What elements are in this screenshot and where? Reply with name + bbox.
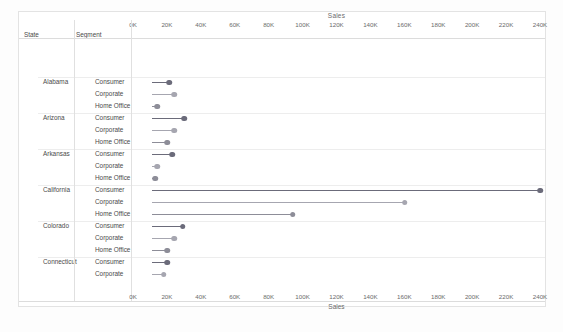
row-segment-label[interactable]: Consumer: [95, 78, 147, 85]
row-plot-pane: [150, 149, 545, 161]
axis-tick-label: 120K: [329, 293, 343, 300]
table-row[interactable]: AlabamaConsumer: [38, 77, 545, 89]
lollipop-dot[interactable]: [180, 224, 186, 230]
table-row[interactable]: ColoradoConsumer: [38, 221, 545, 233]
row-state-label[interactable]: California: [43, 186, 95, 193]
row-plot-pane: [150, 233, 545, 245]
table-row[interactable]: Corporate: [38, 161, 545, 173]
row-plot-pane: [150, 89, 545, 101]
row-plot-pane: [150, 101, 545, 113]
row-plot-pane: [150, 245, 545, 257]
axis-tick-label: 240K: [533, 21, 547, 28]
row-plot-pane: [150, 137, 545, 149]
axis-tick-label: 240K: [533, 293, 547, 300]
row-segment-label[interactable]: Corporate: [95, 198, 147, 205]
lollipop-dot[interactable]: [164, 140, 170, 146]
axis-tick-label: 0K: [129, 293, 137, 300]
axis-tick-label: 20K: [161, 293, 172, 300]
lollipop-dot[interactable]: [170, 152, 176, 158]
axis-title-top: Sales: [133, 12, 540, 19]
row-segment-label[interactable]: Corporate: [95, 90, 147, 97]
lollipop-dot[interactable]: [290, 212, 296, 218]
table-row[interactable]: ConnecticutConsumer: [38, 257, 545, 269]
row-plot-pane: [150, 269, 545, 281]
lollipop-dot[interactable]: [154, 104, 160, 110]
row-segment-label[interactable]: Consumer: [95, 258, 147, 265]
row-plot-pane: [150, 113, 545, 125]
lollipop-dot[interactable]: [171, 92, 177, 98]
rows-container: AlabamaConsumerCorporateHome OfficeArizo…: [19, 38, 545, 301]
row-plot-pane: [150, 185, 545, 197]
row-state-label[interactable]: Colorado: [43, 222, 95, 229]
table-row[interactable]: ArizonaConsumer: [38, 113, 545, 125]
row-state-label[interactable]: Alabama: [43, 78, 95, 85]
row-segment-label[interactable]: Consumer: [95, 186, 147, 193]
lollipop-dot[interactable]: [538, 188, 544, 194]
row-plot-pane: [150, 125, 545, 137]
table-row[interactable]: Home Office: [38, 173, 545, 185]
axis-tick-label: 220K: [499, 21, 513, 28]
row-state-label[interactable]: Connecticut: [43, 258, 95, 265]
lollipop-dot[interactable]: [161, 272, 167, 278]
lollipop-dot[interactable]: [181, 116, 187, 122]
table-row[interactable]: Corporate: [38, 233, 545, 245]
table-row[interactable]: Corporate: [38, 269, 545, 281]
column-header-state[interactable]: State: [24, 31, 39, 38]
vertical-rule-segment: [131, 20, 132, 301]
row-segment-label[interactable]: Consumer: [95, 150, 147, 157]
axis-tick-label: 160K: [397, 293, 411, 300]
axis-ticks-top: 0K20K40K60K80K100K120K140K160K180K200K22…: [0, 21, 563, 31]
axis-ticks-bottom: 0K20K40K60K80K100K120K140K160K180K200K22…: [0, 293, 563, 303]
lollipop-dot[interactable]: [402, 200, 408, 206]
axis-tick-label: 180K: [431, 21, 445, 28]
axis-tick-label: 200K: [465, 21, 479, 28]
lollipop-dot[interactable]: [164, 248, 170, 254]
table-row[interactable]: Home Office: [38, 101, 545, 113]
row-state-label[interactable]: Arkansas: [43, 150, 95, 157]
row-segment-label[interactable]: Home Office: [95, 102, 147, 109]
row-segment-label[interactable]: Corporate: [95, 162, 147, 169]
row-state-label[interactable]: Arizona: [43, 114, 95, 121]
axis-tick-label: 80K: [263, 293, 274, 300]
table-row[interactable]: Home Office: [38, 245, 545, 257]
table-row[interactable]: CaliforniaConsumer: [38, 185, 545, 197]
table-row[interactable]: Home Office: [38, 209, 545, 221]
row-segment-label[interactable]: Corporate: [95, 234, 147, 241]
worksheet-canvas: Sales 0K20K40K60K80K100K120K140K160K180K…: [0, 0, 563, 332]
table-row[interactable]: Home Office: [38, 137, 545, 149]
table-row[interactable]: Corporate: [38, 125, 545, 137]
row-segment-label[interactable]: Home Office: [95, 210, 147, 217]
lollipop-stem: [152, 202, 405, 203]
lollipop-dot[interactable]: [153, 176, 159, 182]
axis-tick-label: 120K: [329, 21, 343, 28]
column-header-segment[interactable]: Segment: [76, 31, 102, 38]
row-segment-label[interactable]: Consumer: [95, 222, 147, 229]
lollipop-dot[interactable]: [166, 80, 172, 86]
row-plot-pane: [150, 161, 545, 173]
axis-tick-label: 60K: [229, 293, 240, 300]
lollipop-dot[interactable]: [164, 260, 170, 266]
lollipop-stem: [152, 214, 293, 215]
axis-title-bottom: Sales: [133, 303, 540, 310]
row-segment-label[interactable]: Home Office: [95, 174, 147, 181]
lollipop-dot[interactable]: [171, 128, 177, 134]
row-segment-label[interactable]: Corporate: [95, 270, 147, 277]
table-row[interactable]: Corporate: [38, 89, 545, 101]
axis-tick-label: 140K: [363, 293, 377, 300]
row-segment-label[interactable]: Corporate: [95, 126, 147, 133]
row-plot-pane: [150, 257, 545, 269]
axis-tick-label: 140K: [363, 21, 377, 28]
row-segment-label[interactable]: Home Office: [95, 138, 147, 145]
table-row[interactable]: Corporate: [38, 197, 545, 209]
vertical-rule-state: [74, 20, 75, 301]
row-plot-pane: [150, 173, 545, 185]
axis-tick-label: 40K: [195, 293, 206, 300]
table-row[interactable]: ArkansasConsumer: [38, 149, 545, 161]
row-segment-label[interactable]: Home Office: [95, 246, 147, 253]
lollipop-dot[interactable]: [154, 164, 160, 170]
lollipop-dot[interactable]: [171, 236, 177, 242]
row-segment-label[interactable]: Consumer: [95, 114, 147, 121]
row-plot-pane: [150, 197, 545, 209]
axis-tick-label: 60K: [229, 21, 240, 28]
row-plot-pane: [150, 221, 545, 233]
